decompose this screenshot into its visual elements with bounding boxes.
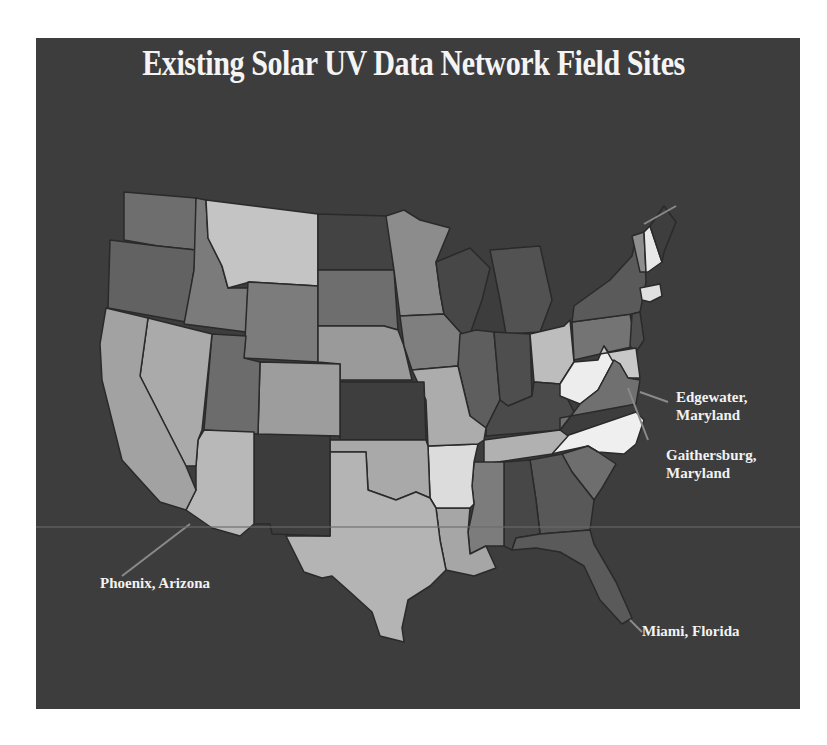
scan-artifact-line — [36, 526, 800, 528]
state-new-jersey — [630, 312, 644, 352]
site-label-line2: Maryland — [666, 464, 756, 482]
state-florida — [512, 530, 632, 624]
leader-line-phoenix — [122, 524, 190, 576]
site-label-gaithersburg: Gaithersburg, Maryland — [666, 446, 756, 482]
site-label-line1: Gaithersburg, — [666, 446, 756, 464]
state-colorado — [258, 362, 340, 436]
site-label-line2: Maryland — [676, 406, 748, 424]
state-connecticut — [640, 284, 662, 302]
state-wyoming — [244, 282, 318, 362]
site-label-line1: Edgewater, — [676, 388, 748, 406]
site-label-edgewater: Edgewater, Maryland — [676, 388, 748, 424]
state-arkansas — [428, 444, 478, 508]
leader-line-edgewater — [640, 392, 668, 402]
site-label-line1: Phoenix, Arizona — [100, 574, 210, 592]
state-new-mexico — [254, 432, 330, 536]
leader-line-miami — [630, 620, 642, 632]
state-south-dakota — [318, 270, 398, 330]
state-kansas — [340, 382, 426, 440]
site-label-phoenix: Phoenix, Arizona — [100, 574, 210, 592]
state-oregon — [108, 240, 196, 322]
state-north-dakota — [318, 214, 394, 270]
site-label-miami: Miami, Florida — [642, 622, 740, 640]
state-washington — [124, 192, 196, 250]
site-label-line1: Miami, Florida — [642, 622, 740, 640]
state-indiana — [494, 332, 532, 406]
state-michigan — [490, 246, 552, 334]
